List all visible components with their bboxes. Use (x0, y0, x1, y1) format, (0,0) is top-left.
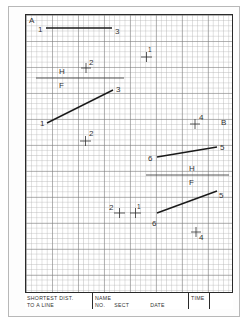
sect-label: SECT (114, 302, 129, 308)
title-block-title: SHORTEST DIST. TO A LINE (25, 293, 93, 309)
label-b-front-6: 6 (152, 219, 157, 228)
crosshair-icon (114, 208, 125, 218)
label-b-front-4: 4 (199, 233, 204, 242)
no-label: NO. (95, 302, 105, 308)
line-a-front-1-3 (47, 90, 113, 123)
label-b-top-4: 4 (199, 113, 204, 122)
label-a-top-1: 1 (38, 25, 43, 34)
sheet-label-b: B (221, 118, 226, 127)
fold-label-b-f: F (189, 178, 194, 187)
sheet-label-a: A (29, 16, 35, 25)
name-label: NAME (95, 295, 186, 301)
label-b-extra-2: 2 (109, 203, 114, 212)
label-a-top-3: 3 (115, 27, 120, 36)
fold-label-a-h: H (59, 67, 65, 76)
line-b-front-6-5 (157, 191, 217, 213)
line-b-top-6-5 (157, 147, 217, 157)
fold-label-a-f: F (59, 81, 64, 90)
title-block-time: TIME (189, 293, 210, 309)
label-b-extra-1: 1 (137, 203, 141, 210)
title-block-grade (210, 293, 233, 309)
drawing-canvas: A 1 3 2 H F 1 3 2 1 B 4 6 5 H F 6 5 (0, 0, 247, 329)
label-b-front-5: 5 (219, 191, 224, 200)
label-a-front-2: 2 (89, 129, 94, 138)
title-line-1: SHORTEST DIST. (27, 295, 90, 301)
label-a-front-1: 1 (40, 119, 45, 128)
title-block-name: NAME NO. SECT DATE (93, 293, 189, 309)
crosshair-icon (141, 52, 152, 62)
label-b-top-5: 5 (220, 143, 225, 152)
label-a-front-3: 3 (116, 85, 121, 94)
fold-label-b-h: H (189, 164, 195, 173)
label-free-1: 1 (148, 46, 152, 53)
title-line-2: TO A LINE (27, 302, 90, 308)
label-a-top-2: 2 (89, 58, 94, 67)
time-label: TIME (191, 295, 207, 301)
title-block: SHORTEST DIST. TO A LINE NAME NO. SECT D… (25, 292, 233, 309)
date-label: DATE (150, 302, 165, 308)
label-b-top-6: 6 (148, 154, 153, 163)
